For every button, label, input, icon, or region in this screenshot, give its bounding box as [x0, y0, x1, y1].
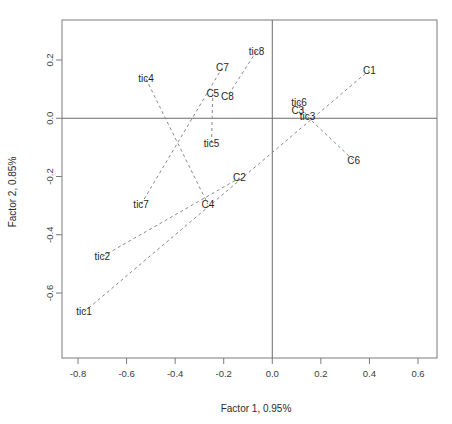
y-axis-title: Factor 2, 0.85%	[7, 157, 18, 228]
x-tick-label: 0.2	[314, 368, 327, 379]
y-tick-label: -0.4	[44, 227, 55, 243]
point-label-tic5: tic5	[204, 138, 220, 149]
x-tick-label: -0.8	[70, 368, 86, 379]
point-label-c4: C4	[202, 199, 215, 210]
point-label-tic6: tic6	[291, 97, 307, 108]
zero-reference-lines	[62, 20, 437, 358]
x-axis-ticks	[78, 358, 418, 364]
y-tick-label: 0.0	[44, 112, 55, 125]
x-axis-tick-labels: -0.8-0.6-0.4-0.20.00.20.40.6	[70, 368, 425, 379]
point-label-c1: C1	[363, 65, 376, 76]
point-label-tic3: tic3	[300, 111, 316, 122]
plot-frame	[62, 20, 437, 358]
point-label-tic1: tic1	[76, 306, 92, 317]
point-label-c2: C2	[233, 172, 246, 183]
x-tick-label: -0.2	[216, 368, 232, 379]
y-axis-tick-labels: -0.6-0.4-0.20.00.2	[44, 53, 55, 301]
plot-canvas: -0.8-0.6-0.4-0.20.00.20.40.6 -0.6-0.4-0.…	[0, 0, 452, 424]
y-tick-label: -0.2	[44, 168, 55, 184]
x-tick-label: 0.4	[363, 368, 376, 379]
scatter-plot-figure: -0.8-0.6-0.4-0.20.00.20.40.6 -0.6-0.4-0.…	[0, 0, 452, 424]
point-label-c6: C6	[347, 155, 360, 166]
y-axis-ticks	[56, 60, 62, 293]
point-label-tic4: tic4	[138, 73, 154, 84]
x-tick-label: -0.4	[167, 368, 183, 379]
y-tick-label: 0.2	[44, 53, 55, 66]
x-tick-label: 0.0	[266, 368, 279, 379]
x-axis-title: Factor 1, 0.95%	[221, 403, 292, 414]
point-label-c7: C7	[216, 62, 229, 73]
x-tick-label: -0.6	[118, 368, 134, 379]
point-label-c5: C5	[206, 88, 219, 99]
data-point-labels: C1C2C3C4C5C6C7C8tic1tic2tic3tic4tic5tic6…	[76, 46, 376, 318]
point-label-tic8: tic8	[249, 46, 265, 57]
point-label-c8: C8	[221, 91, 234, 102]
x-tick-label: 0.6	[411, 368, 424, 379]
y-tick-label: -0.6	[44, 285, 55, 301]
point-label-tic7: tic7	[133, 199, 149, 210]
point-label-tic2: tic2	[95, 251, 111, 262]
